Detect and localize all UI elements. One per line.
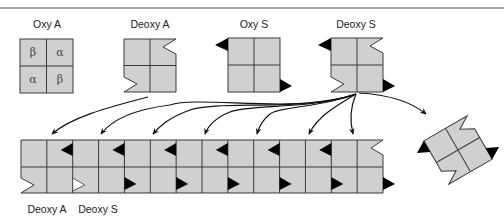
fiber-label-deoxy-s: Deoxy S [78,203,118,215]
sticky-patch-icon [383,177,395,190]
fiber-label-deoxy-a: Deoxy A [27,203,66,215]
tetramer-deoxy-s [318,38,395,92]
label-deoxy-s: Deoxy S [336,18,376,30]
polymer-fiber [21,140,395,193]
tetramer-oxy-s [215,38,292,92]
subunit-label-alpha: α [29,73,37,86]
arrow-deoxy-s-to-fiber [101,94,356,134]
label-oxy-a: Oxy A [33,18,61,30]
arrow-deoxy-s-to-fiber [351,94,356,134]
sticky-patch-icon [280,79,292,92]
arrow-deoxy-s-to-fiber [257,94,356,134]
tetramer-deoxy-a [124,39,176,92]
sticky-patch-icon [215,38,228,51]
sticky-patch-icon [383,79,395,92]
label-deoxy-a: Deoxy A [130,18,169,30]
arrow-deoxy-a-to-fiber [52,97,148,134]
sticky-patch-icon [318,38,331,51]
tetramer-deoxy-s-rotated [413,110,502,190]
label-oxy-s: Oxy S [240,18,269,30]
arrows [52,93,426,134]
arrow-deoxy-s-to-free-tetramer [359,93,426,114]
tetramer-oxy-a: β α α β [20,39,73,93]
arrow-deoxy-s-to-fiber [205,94,356,134]
subunit-label-beta: β [30,46,36,59]
subunit-label-alpha: α [56,46,64,59]
hemoglobin-polymerization-diagram: Oxy A Deoxy A Oxy S Deoxy S β α α β [0,0,504,220]
subunit-label-beta: β [57,73,63,86]
